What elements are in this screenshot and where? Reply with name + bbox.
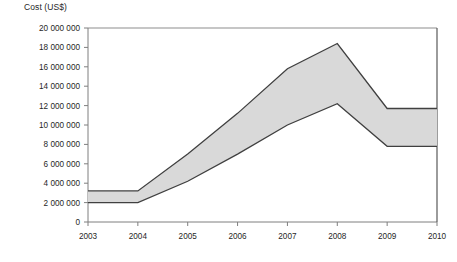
y-axis-tick-label: 14 000 000: [39, 82, 80, 91]
plot-area: 02 000 0004 000 0006 000 0008 000 00010 …: [0, 0, 457, 262]
x-axis-tick-label: 2006: [228, 232, 247, 241]
x-axis-tick-label: 2010: [428, 232, 447, 241]
y-axis-tick-label: 4 000 000: [44, 179, 81, 188]
x-axis-tick-label: 2007: [278, 232, 297, 241]
y-axis-tick-label: 8 000 000: [44, 140, 81, 149]
y-axis-tick-label: 0: [75, 218, 80, 227]
x-axis-tick-label: 2009: [378, 232, 397, 241]
y-axis-tick-label: 10 000 000: [39, 121, 80, 130]
x-axis-tick-label: 2003: [79, 232, 98, 241]
y-axis-tick-label: 18 000 000: [39, 43, 80, 52]
y-axis-tick-label: 20 000 000: [39, 24, 80, 33]
y-axis-tick-group: 02 000 0004 000 0006 000 0008 000 00010 …: [39, 24, 88, 227]
y-axis-tick-label: 2 000 000: [44, 199, 81, 208]
cost-range-band: [88, 44, 437, 203]
y-axis-tick-label: 6 000 000: [44, 160, 81, 169]
cost-range-area-chart: Cost (US$) 02 000 0004 000 0006 000 0008…: [0, 0, 457, 262]
x-axis-tick-group: 20032004200520062007200820092010: [79, 222, 447, 241]
y-axis-tick-label: 12 000 000: [39, 102, 80, 111]
x-axis-tick-label: 2008: [328, 232, 347, 241]
x-axis-tick-label: 2005: [179, 232, 198, 241]
x-axis-tick-label: 2004: [129, 232, 148, 241]
y-axis-tick-label: 16 000 000: [39, 63, 80, 72]
